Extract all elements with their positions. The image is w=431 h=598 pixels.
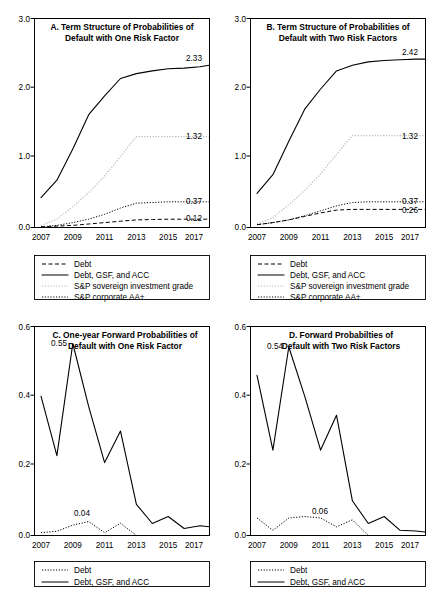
panel-c-ytick-labels: 0.6 0.4 0.2 0.0 bbox=[19, 323, 31, 541]
legend-label-sp-corporate: S&P corporate AA+ bbox=[74, 293, 145, 302]
panel-b-title-line1: B. Term Structure of Probabilities of bbox=[266, 22, 409, 32]
ytick-3: 0.6 bbox=[235, 323, 247, 332]
panel-d-plot: D. Forward Probabilties of Default with … bbox=[235, 323, 426, 551]
ytick-0: 0.0 bbox=[19, 223, 31, 232]
panel-c-ytick-marks bbox=[31, 327, 35, 536]
panel-d-series-debt bbox=[257, 517, 425, 536]
ytick-1: 0.2 bbox=[235, 460, 247, 469]
panel-b: B. Term Structure of Probabilities of De… bbox=[216, 8, 431, 304]
panel-c-xtick-labels: 2007 2009 2011 2013 2015 2017 bbox=[32, 541, 204, 550]
legend-label-debt-gsf-acc: Debt, GSF, and ACC bbox=[74, 578, 149, 587]
panel-c-plot: C. One-year Forward Probabilities of Def… bbox=[19, 323, 210, 551]
panel-b-legend: Debt Debt, GSF, and ACC S&P sovereign in… bbox=[251, 256, 426, 303]
panel-a-series-sp-sovereign bbox=[41, 137, 209, 226]
label-0-04: 0.04 bbox=[74, 509, 90, 518]
panel-a-legend: Debt Debt, GSF, and ACC S&P sovereign in… bbox=[35, 256, 210, 303]
label-0-06: 0.06 bbox=[312, 507, 328, 516]
panel-a-ytick-labels: 3.0 2.0 1.0 0.0 bbox=[19, 15, 31, 233]
panel-a-title-line1: A. Term Structure of Probabilities of bbox=[50, 22, 193, 32]
panel-b-series-sp-corporate bbox=[257, 202, 425, 225]
ytick-3: 3.0 bbox=[19, 15, 31, 24]
xtick-2011: 2011 bbox=[96, 541, 114, 550]
xtick-2017: 2017 bbox=[185, 233, 204, 242]
xtick-2011: 2011 bbox=[96, 233, 114, 242]
label-0-37: 0.37 bbox=[402, 197, 418, 206]
label-0-37: 0.37 bbox=[186, 197, 202, 206]
panel-c-annotations: 0.55 0.04 bbox=[51, 339, 90, 518]
panel-b-plot: B. Term Structure of Probabilities of De… bbox=[235, 15, 426, 243]
legend-label-sp-sovereign: S&P sovereign investment grade bbox=[290, 282, 410, 291]
panel-b-ytick-labels: 3.0 2.0 1.0 0.0 bbox=[235, 15, 247, 233]
panel-c-series-debt-gsf-acc bbox=[41, 344, 209, 529]
panel-b-title-line2: Default with Two Risk Factors bbox=[279, 33, 398, 43]
label-0-12: 0.12 bbox=[186, 214, 202, 223]
xtick-2013: 2013 bbox=[343, 233, 362, 242]
ytick-1: 1.0 bbox=[235, 152, 247, 161]
xtick-2017: 2017 bbox=[185, 541, 204, 550]
ytick-2: 0.4 bbox=[235, 391, 247, 400]
xtick-2011: 2011 bbox=[312, 541, 330, 550]
legend-label-debt-gsf-acc: Debt, GSF, and ACC bbox=[290, 271, 365, 280]
xtick-2013: 2013 bbox=[127, 233, 146, 242]
panel-b-xtick-labels: 2007 2009 2011 2013 2015 2017 bbox=[248, 233, 420, 242]
legend-label-debt: Debt bbox=[290, 566, 308, 575]
label-1-32: 1.32 bbox=[402, 132, 418, 141]
panel-d-series-debt-gsf-acc bbox=[257, 347, 425, 532]
panel-d: D. Forward Probabilties of Default with … bbox=[216, 318, 431, 598]
xtick-2017: 2017 bbox=[401, 541, 420, 550]
legend-label-debt-gsf-acc: Debt, GSF, and ACC bbox=[74, 271, 149, 280]
xtick-2009: 2009 bbox=[64, 541, 83, 550]
label-2-42: 2.42 bbox=[402, 48, 418, 57]
panel-c-title-line2: Default with One Risk Factor bbox=[68, 341, 183, 351]
panel-b-series-debt-gsf-acc bbox=[257, 59, 425, 193]
panel-d-title-line2: Default with Two Risk Factors bbox=[282, 341, 401, 351]
panel-a-ytick-marks bbox=[31, 19, 35, 228]
xtick-2017: 2017 bbox=[401, 233, 420, 242]
xtick-2007: 2007 bbox=[32, 233, 51, 242]
panel-c-legend: Debt Debt, GSF, and ACC bbox=[35, 562, 210, 588]
label-2-33: 2.33 bbox=[186, 54, 202, 63]
panel-b-annotations: 2.42 1.32 0.37 0.26 bbox=[402, 48, 418, 215]
ytick-3: 0.6 bbox=[19, 323, 31, 332]
ytick-0: 0.0 bbox=[235, 223, 247, 232]
panel-d-legend: Debt Debt, GSF, and ACC bbox=[251, 562, 426, 588]
ytick-0: 0.0 bbox=[19, 531, 31, 540]
panel-a-frame bbox=[35, 19, 210, 228]
panel-a-xtick-labels: 2007 2009 2011 2013 2015 2017 bbox=[32, 233, 204, 242]
legend-label-debt: Debt bbox=[290, 260, 308, 269]
legend-label-debt: Debt bbox=[74, 260, 92, 269]
xtick-2013: 2013 bbox=[127, 541, 146, 550]
label-0-55: 0.55 bbox=[51, 339, 67, 348]
figure-container: A. Term Structure of Probabilities of De… bbox=[0, 0, 431, 598]
panel-a-plot: A. Term Structure of Probabilities of De… bbox=[19, 15, 210, 243]
legend-label-sp-corporate: S&P corporate AA+ bbox=[290, 293, 361, 302]
panel-d-ytick-marks bbox=[247, 327, 251, 536]
panel-d-title-line1: D. Forward Probabilties of bbox=[289, 330, 393, 340]
xtick-2011: 2011 bbox=[312, 233, 330, 242]
ytick-2: 0.4 bbox=[19, 391, 31, 400]
xtick-2009: 2009 bbox=[280, 233, 299, 242]
ytick-1: 0.2 bbox=[19, 460, 31, 469]
ytick-0: 0.0 bbox=[235, 531, 247, 540]
panel-c: C. One-year Forward Probabilities of Def… bbox=[0, 318, 215, 598]
ytick-2: 2.0 bbox=[19, 83, 31, 92]
label-1-32: 1.32 bbox=[186, 132, 202, 141]
legend-label-debt: Debt bbox=[74, 566, 92, 575]
label-0-54: 0.54 bbox=[267, 342, 283, 351]
xtick-2015: 2015 bbox=[375, 233, 394, 242]
ytick-1: 1.0 bbox=[19, 152, 31, 161]
ytick-3: 3.0 bbox=[235, 15, 247, 24]
panel-b-series-sp-sovereign bbox=[257, 136, 425, 224]
xtick-2007: 2007 bbox=[32, 541, 51, 550]
panel-a: A. Term Structure of Probabilities of De… bbox=[0, 8, 215, 304]
xtick-2007: 2007 bbox=[248, 233, 267, 242]
xtick-2015: 2015 bbox=[159, 233, 178, 242]
panel-a-series-debt-gsf-acc bbox=[41, 65, 209, 197]
panel-d-ytick-labels: 0.6 0.4 0.2 0.0 bbox=[235, 323, 247, 541]
xtick-2007: 2007 bbox=[248, 541, 267, 550]
panel-a-annotations: 2.33 1.32 0.37 0.12 bbox=[186, 54, 202, 223]
xtick-2009: 2009 bbox=[64, 233, 83, 242]
xtick-2015: 2015 bbox=[159, 541, 178, 550]
panel-c-title-line1: C. One-year Forward Probabilities of bbox=[52, 330, 197, 340]
legend-label-sp-sovereign: S&P sovereign investment grade bbox=[74, 282, 194, 291]
